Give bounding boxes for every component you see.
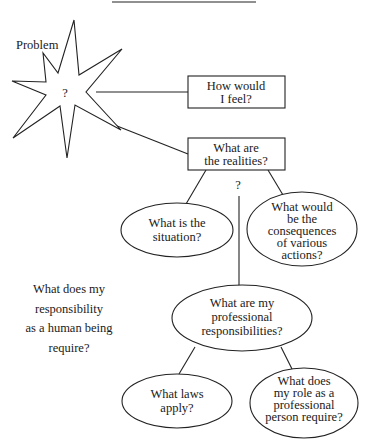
ellipse-laws-line-1: What laws [150, 387, 203, 401]
free-text-line-1: What does my [33, 282, 106, 296]
box-feel-line-2: I feel? [220, 92, 252, 106]
box-what-are-the-realities: What are the realities? [188, 138, 285, 170]
problem-label: Problem [16, 38, 59, 52]
ellipse-laws-line-2: apply? [160, 401, 194, 415]
connector-realities-consequences [268, 170, 283, 195]
ellipse-situation-line-1: What is the [149, 216, 206, 230]
ellipse-consequences-line-5: actions? [282, 248, 323, 262]
ellipse-professional-line-2: professional [211, 310, 273, 324]
ellipse-consequences: What would be the consequences of variou… [247, 192, 357, 266]
ellipse-laws: What laws apply? [122, 374, 232, 428]
connector-professional-role [281, 347, 292, 369]
free-text-line-4: require? [49, 341, 90, 355]
ellipse-situation: What is the situation? [121, 203, 233, 257]
box-realities-line-1: What are [213, 141, 259, 155]
connector-professional-laws [179, 347, 195, 374]
box-realities-line-2: the realities? [204, 154, 268, 168]
human-responsibility-text: What does my responsibility as a human b… [25, 282, 113, 355]
ellipse-professional-responsibilities: What are my professional responsibilitie… [172, 285, 312, 351]
free-text-line-2: responsibility [35, 302, 104, 316]
problem-question-mark: ? [62, 86, 68, 100]
ellipse-professional-line-3: responsibilities? [201, 324, 283, 338]
box-how-would-i-feel: How would I feel? [188, 76, 285, 108]
ellipse-role: What does my role as a professional pers… [250, 368, 358, 438]
branch-question-mark: ? [235, 178, 241, 192]
ellipse-professional-line-1: What are my [210, 296, 275, 310]
ellipse-situation-line-2: situation? [153, 230, 202, 244]
ellipse-role-line-4: person require? [265, 410, 343, 424]
box-feel-line-1: How would [207, 79, 266, 93]
connector-problem-realities [112, 124, 188, 154]
connector-realities-situation [186, 170, 206, 204]
free-text-line-3: as a human being [25, 321, 113, 335]
ethics-diagram: Problem ? How would I feel? What are the… [0, 0, 372, 447]
